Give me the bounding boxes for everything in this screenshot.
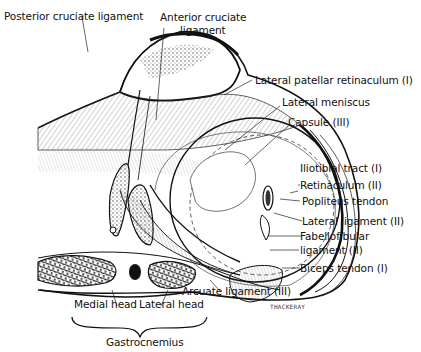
label-biceps-tendon: Biceps tendon (I) <box>300 262 388 274</box>
label-lateral-meniscus: Lateral meniscus <box>282 96 370 108</box>
label-iliotibial-tract: Iliotibial tract (I) <box>300 162 382 174</box>
label-capsule: Capsule (III) <box>288 116 349 128</box>
anatomy-illustration <box>0 0 421 352</box>
label-anterior-cruciate-ligament-line1: Anterior cruciate <box>160 11 246 23</box>
label-lateral-ligament: Lateral ligament (II) <box>302 215 404 227</box>
label-gastrocnemius: Gastrocnemius <box>106 336 184 348</box>
knee-anatomy-diagram: Posterior cruciate ligament Anterior cru… <box>0 0 421 352</box>
label-retinaculum: Retinaculum (II) <box>300 179 382 191</box>
label-fabellofibular-ligament-line2: ligament (II) <box>300 244 363 256</box>
label-popliteus-tendon: Popliteus tendon <box>302 195 388 207</box>
label-lateral-head: Lateral head <box>139 298 204 310</box>
gastrocnemius-medial-head <box>38 256 116 287</box>
label-anterior-cruciate-ligament-line2: ligament <box>180 24 226 36</box>
label-fabellofibular-ligament-line1: Fabellofibular <box>300 230 369 242</box>
artist-signature: THACKERAY <box>270 303 305 310</box>
label-arcuate-ligament: Arcuate ligament (III) <box>182 285 291 297</box>
label-posterior-cruciate-ligament: Posterior cruciate ligament <box>4 10 143 22</box>
label-lateral-patellar-retinaculum: Lateral patellar retinaculum (I) <box>255 74 413 86</box>
label-medial-head: Medial head <box>74 298 137 310</box>
gastrocnemius-brace <box>72 317 207 337</box>
